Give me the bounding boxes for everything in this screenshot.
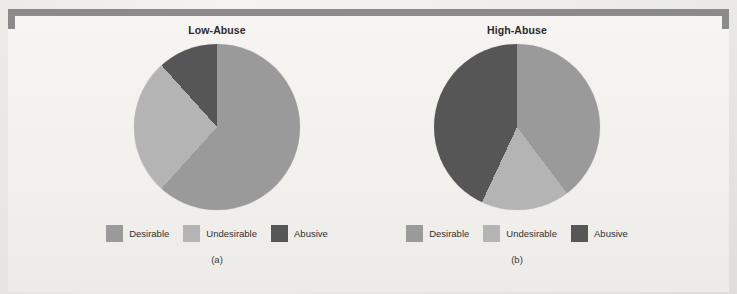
legend-swatch-icon-abusive (271, 225, 288, 242)
legend-item-abusive[interactable]: Abusive (271, 225, 328, 242)
subcaption-b: (b) (352, 254, 682, 265)
bracket-right-tick (722, 9, 729, 29)
legend-item-undesirable[interactable]: Undesirable (183, 225, 257, 242)
legend-label-desirable: Desirable (129, 228, 169, 239)
pie-chart-low-abuse (134, 44, 300, 210)
legend-label-desirable: Desirable (429, 228, 469, 239)
legend-swatch-icon-desirable (106, 225, 123, 242)
legend-item-undesirable[interactable]: Undesirable (483, 225, 557, 242)
legend-label-abusive: Abusive (594, 228, 628, 239)
figure-page: Low-Abuse Desirable Undesirable Abusive … (0, 0, 737, 294)
legend-swatch-icon-abusive (571, 225, 588, 242)
pie-chart-high-abuse (434, 44, 600, 210)
subcaption-a: (a) (52, 254, 382, 265)
legend-high-abuse: Desirable Undesirable Abusive (352, 225, 682, 242)
chart-panel-low-abuse: Low-Abuse Desirable Undesirable Abusive … (52, 22, 382, 284)
legend-label-abusive: Abusive (294, 228, 328, 239)
chart-panel-high-abuse: High-Abuse Desirable Undesirable Abusive… (352, 22, 682, 284)
legend-item-desirable[interactable]: Desirable (406, 225, 469, 242)
chart-title-low-abuse: Low-Abuse (52, 24, 382, 36)
legend-label-undesirable: Undesirable (206, 228, 257, 239)
bracket-left-tick (8, 9, 15, 29)
legend-swatch-icon-undesirable (483, 225, 500, 242)
pie-slices-high-abuse (434, 44, 600, 210)
legend-swatch-icon-undesirable (183, 225, 200, 242)
legend-item-abusive[interactable]: Abusive (571, 225, 628, 242)
bracket-horizontal-rule (8, 9, 729, 16)
legend-label-undesirable: Undesirable (506, 228, 557, 239)
chart-title-high-abuse: High-Abuse (352, 24, 682, 36)
legend-item-desirable[interactable]: Desirable (106, 225, 169, 242)
pie-slices-low-abuse (134, 44, 300, 210)
legend-swatch-icon-desirable (406, 225, 423, 242)
legend-low-abuse: Desirable Undesirable Abusive (52, 225, 382, 242)
